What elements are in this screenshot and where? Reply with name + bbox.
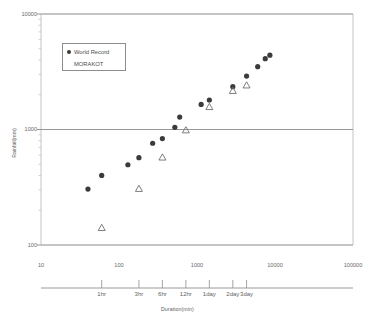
duration-axis-ticks [102,280,247,288]
rainfall-duration-chart: 100100010000 10100100010000100000 1hr3hr… [0,0,383,325]
data-point-morakot [98,224,105,230]
chart-legend: World Record MORAKOT [62,43,126,71]
data-point-morakot [159,154,166,160]
x-tick-label: 100 [99,262,139,268]
data-point-world-record [150,141,155,146]
legend-label-morakot: MORAKOT [74,61,103,67]
x-tick-label: 10000 [255,262,295,268]
duration-tick-label: 1hr [82,291,122,297]
data-point-world-record [199,102,204,107]
filled-circle-icon [67,50,71,54]
series-world-record [85,53,272,192]
x-tick-label: 1000 [177,262,217,268]
data-point-world-record [85,186,90,191]
data-point-world-record [160,136,165,141]
data-point-morakot [206,103,213,109]
y-axis-label: Rainfall(mm) [11,113,17,173]
data-point-world-record [255,64,260,69]
legend-entry-morakot: MORAKOT [67,59,103,69]
x-tick-label: 10 [21,262,61,268]
legend-entry-world-record: World Record [67,47,109,57]
data-point-morakot [135,185,142,191]
data-point-world-record [244,73,249,78]
x-axis-label: Duration(min) [161,306,194,312]
open-triangle-icon [67,62,71,66]
y-tick-label: 100 [12,242,37,248]
data-point-morakot [243,82,250,88]
data-point-world-record [136,155,141,160]
data-point-world-record [172,125,177,130]
y-tick-label: 10000 [12,11,37,17]
data-point-world-record [267,53,272,58]
data-point-world-record [99,173,104,178]
duration-tick-label: 3day [227,291,267,297]
x-tick-label: 100000 [333,262,373,268]
legend-label-world-record: World Record [74,49,109,55]
plot-canvas [0,0,383,325]
data-point-world-record [125,162,130,167]
data-point-world-record [207,97,212,102]
series-morakot [98,82,250,231]
data-point-world-record [263,56,268,61]
data-point-world-record [177,115,182,120]
